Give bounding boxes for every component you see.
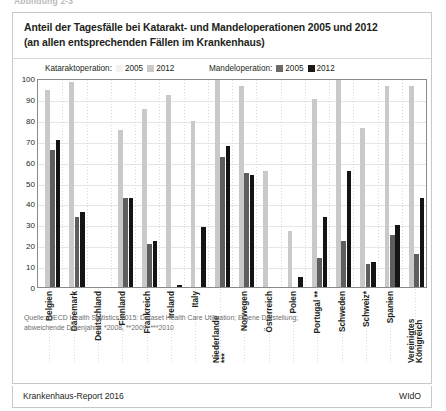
bar-group [62, 80, 86, 287]
bar-group [378, 80, 402, 287]
bar-group [184, 80, 208, 287]
bar [371, 262, 376, 287]
bar-group [281, 80, 305, 287]
bar [177, 285, 182, 287]
figure-title: Anteil der Tagesfälle bei Katarakt- und … [24, 21, 422, 50]
legend-cataract-item-2012: 2012 [156, 64, 174, 73]
bar [80, 212, 85, 287]
bar [129, 198, 134, 287]
bar [250, 175, 255, 287]
bar-group [329, 80, 353, 287]
bar [312, 99, 317, 287]
y-tick-90: 90 [15, 95, 35, 104]
bar [239, 86, 244, 287]
footer-report-title: Krankenhaus-Report 2016 [23, 391, 124, 401]
bar [75, 217, 80, 287]
figure-page: Abbildung 2-3 Anteil der Tagesfälle bei … [0, 0, 446, 411]
legend-cataract-swatch-2005 [116, 65, 123, 72]
bar [123, 198, 128, 287]
legend-group-cataract: Kataraktoperation:20052012 [45, 64, 174, 73]
y-tick-70: 70 [15, 137, 35, 146]
legend-tonsil-swatch-2005 [276, 65, 283, 72]
bar [395, 225, 400, 287]
bar-group [38, 80, 62, 287]
bar [201, 227, 206, 287]
bar [317, 258, 322, 287]
bar [215, 80, 220, 287]
bar [341, 241, 346, 287]
bar-group [402, 80, 426, 287]
chart-legend: Kataraktoperation:20052012 Mandeloperati… [13, 63, 431, 79]
bar [220, 157, 225, 287]
x-axis-label: Polen [289, 291, 298, 314]
bar [226, 146, 231, 287]
bar [298, 277, 303, 287]
bar [323, 217, 328, 287]
y-tick-10: 10 [15, 263, 35, 272]
bar [414, 254, 419, 287]
bar [263, 171, 268, 287]
figure-box: Anteil der Tagesfälle bei Katarakt- und … [12, 12, 432, 384]
plot-area: 0102030405060708090100 BelgienDänemarkDe… [13, 79, 431, 309]
y-tick-40: 40 [15, 200, 35, 209]
bar [147, 244, 152, 287]
legend-cataract-label: Kataraktoperation: [45, 64, 112, 73]
bar [360, 128, 365, 287]
bar [142, 109, 147, 287]
bar-group [135, 80, 159, 287]
y-tick-80: 80 [15, 116, 35, 125]
bar-series-container [38, 80, 426, 287]
legend-tonsil-item-2005: 2005 [285, 64, 303, 73]
bar [69, 82, 74, 287]
y-tick-30: 30 [15, 221, 35, 230]
source-line1: Quelle: OECD Health Statistics 2015: Dat… [24, 313, 419, 323]
y-axis: 0102030405060708090100 [15, 79, 35, 288]
bar [288, 231, 293, 287]
bar-group [111, 80, 135, 287]
bar [50, 150, 55, 287]
bar-group [159, 80, 183, 287]
bar-group [305, 80, 329, 287]
bar [366, 264, 371, 287]
source-line2: abweichende Datenjahre: *2008, **2009, *… [24, 323, 419, 333]
legend-cataract-item-2005: 2005 [125, 64, 143, 73]
bar-group [87, 80, 111, 287]
y-tick-60: 60 [15, 158, 35, 167]
legend-tonsil-swatch-2012 [308, 65, 315, 72]
legend-group-tonsil: Mandeloperation:20052012 [209, 64, 335, 73]
bar [153, 241, 158, 287]
legend-tonsil-item-2012: 2012 [317, 64, 335, 73]
footer-publisher: WIdO [399, 391, 421, 401]
bar [118, 130, 123, 287]
bar [45, 90, 50, 287]
title-divider [13, 58, 431, 59]
y-tick-0: 0 [15, 284, 35, 293]
x-axis-label: Italy [191, 291, 200, 308]
bar-group [208, 80, 232, 287]
plot-canvas [37, 79, 427, 288]
bar [347, 171, 352, 287]
bar [166, 95, 171, 288]
figure-footer: Krankenhaus-Report 2016 WIdO [12, 386, 432, 408]
abbildung-caption: Abbildung 2-3 [14, 0, 134, 8]
bar [385, 86, 390, 287]
bar [244, 173, 249, 287]
figure-title-line2: (an allen entsprechenden Fällen im Krank… [24, 36, 422, 51]
legend-tonsil-label: Mandeloperation: [209, 64, 272, 73]
legend-cataract-swatch-2012 [147, 65, 154, 72]
y-tick-20: 20 [15, 242, 35, 251]
bar [409, 86, 414, 287]
bar [420, 198, 425, 287]
bar-group [353, 80, 377, 287]
source-note: Quelle: OECD Health Statistics 2015: Dat… [24, 313, 419, 332]
y-tick-50: 50 [15, 179, 35, 188]
bar [390, 235, 395, 287]
bar-group [256, 80, 280, 287]
y-tick-100: 100 [15, 75, 35, 84]
bar-group [232, 80, 256, 287]
bar [56, 140, 61, 287]
bar [336, 80, 341, 287]
figure-title-line1: Anteil der Tagesfälle bei Katarakt- und … [24, 21, 422, 36]
bar [191, 121, 196, 287]
